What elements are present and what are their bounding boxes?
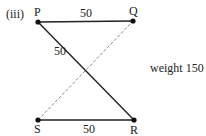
edge-s-r-weight: 50: [83, 122, 95, 136]
node-r-dot: [131, 117, 136, 122]
node-s-label: S: [34, 122, 41, 136]
edge-p-q-weight: 50: [80, 6, 92, 20]
edge-p-r-weight: 50: [54, 44, 66, 58]
graph-diagram: (iii) P Q S R 50 50 50 weight 150: [0, 0, 206, 136]
node-r-label: R: [130, 123, 138, 136]
total-weight-label: weight 150: [150, 61, 204, 75]
edge-p-q: [38, 21, 133, 22]
node-q-dot: [130, 18, 135, 23]
node-p-dot: [35, 19, 40, 24]
part-label: (iii): [6, 7, 24, 21]
node-p-label: P: [34, 5, 41, 19]
node-q-label: Q: [129, 4, 138, 18]
